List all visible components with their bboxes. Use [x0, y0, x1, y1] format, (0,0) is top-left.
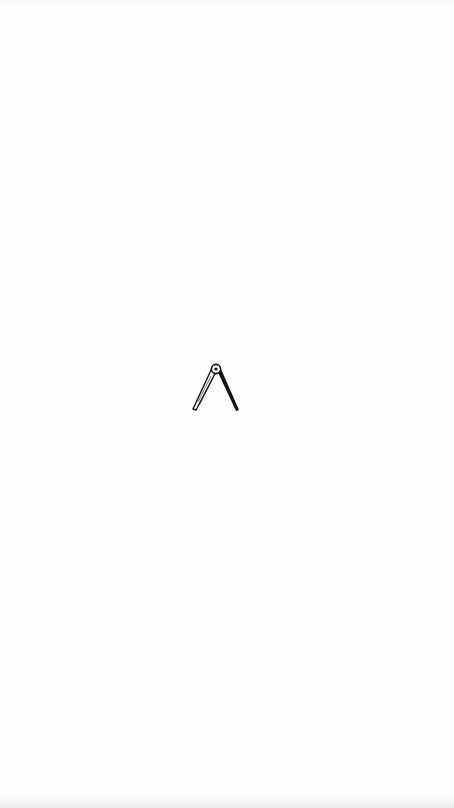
- bleed-through-line: · · · · · · · · · · · · · · · · · · · ·: [0, 112, 454, 124]
- bleed-through-line: · · · · · · · · · · ·: [0, 250, 454, 262]
- bleed-through-line: · · · · · · · · · · · · · · · · · · · · …: [0, 92, 454, 104]
- bleed-through-line: · · · · · · · · · · · · · · · · ·: [0, 330, 454, 342]
- compass-divider-icon: [190, 362, 242, 414]
- bleed-through-line: · · · · · · · · · · · ·: [0, 310, 454, 322]
- bleed-through-line: · · · · · · · · · · · · · · · · · · ·: [0, 450, 454, 462]
- bleed-through-line: · · · · · · · · · · · · · · · · · · · · …: [0, 430, 454, 442]
- bleed-through-line: · · · · · · · · · · · · · · · · · · · · …: [0, 470, 454, 482]
- bleed-through-line: · · · · · · · · · · · · · · · · ·: [0, 630, 454, 642]
- bleed-through-line: · · · · · · · · · · · · · · · · · · · ·: [0, 670, 454, 682]
- bleed-through-line: · · · · ·: [0, 152, 454, 164]
- bleed-through-line: · · · · · · · · · · · ·: [0, 510, 454, 522]
- page-bottom-edge: [0, 794, 454, 808]
- bleed-through-line: · · · · · · · · · · · · · ·: [0, 132, 454, 144]
- bleed-through-line: · · · · · · · · · · · · ·: [0, 210, 454, 222]
- bleed-through-line: · · · · · · · · · · · · · · · · · ·: [0, 690, 454, 702]
- bleed-through-line: · · · · · · · · · · · · · · · · · · · · …: [0, 740, 454, 752]
- bleed-through-line: · · · · · · · · · · · · · · ·: [0, 290, 454, 302]
- bleed-through-line: · · · · · · · · · · · · · ·: [0, 190, 454, 202]
- bleed-through-line: · · · · · · · · · · · · · · · · ·: [0, 40, 454, 52]
- book-page: · · · · · · · · · · · · · · · · ·· · · ·…: [0, 0, 454, 808]
- bleed-through-line: · · · · · · · · · · · · · · · ·: [0, 490, 454, 502]
- bleed-through-line: · · · · · · · · · · · · · · · · · · · · …: [0, 570, 454, 582]
- bleed-through-line: · · · · · · · · · · · · · · · · · · · ·: [0, 550, 454, 562]
- page-top-edge: [0, 0, 454, 6]
- bleed-through-line: · · · · · · · · · · · · · · · · · · ·: [0, 610, 454, 622]
- bleed-through-line: · · · · · · · · · · · · · · · · · ·: [0, 270, 454, 282]
